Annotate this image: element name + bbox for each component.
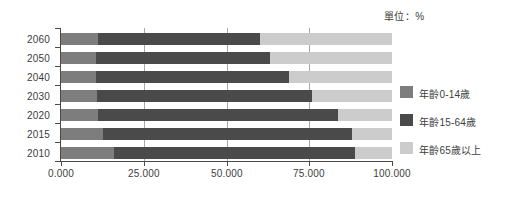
stacked-bar-chart: 單位：% 年齡0-14歲年齡15-64歲年齡65歲以上 206020502040… — [0, 0, 513, 203]
y-axis-label: 2060 — [0, 34, 50, 45]
bar-segment — [98, 33, 260, 45]
bar-segment — [96, 52, 269, 64]
bar-segment — [103, 128, 352, 140]
unit-caption: 單位：% — [384, 8, 425, 23]
bar-row — [61, 52, 392, 64]
x-axis-tick — [392, 161, 393, 166]
bar-segment — [61, 128, 103, 140]
y-axis-tick — [55, 123, 61, 124]
bar-segment — [61, 109, 98, 121]
bar-segment — [270, 52, 392, 64]
bar-segment — [61, 33, 98, 45]
y-axis-tick — [55, 85, 61, 86]
y-axis-tick — [55, 142, 61, 143]
legend-swatch-icon — [400, 114, 413, 126]
legend-label: 年齡15-64歲 — [419, 114, 476, 129]
x-axis-label: 75.000 — [274, 168, 344, 179]
bar-segment — [97, 90, 311, 102]
bar-segment — [312, 90, 392, 102]
x-axis-tick — [227, 161, 228, 166]
plot-area — [61, 28, 392, 161]
y-axis-label: 2030 — [0, 91, 50, 102]
bar-row — [61, 33, 392, 45]
bar-row — [61, 90, 392, 102]
bar-segment — [96, 71, 289, 83]
legend-label: 年齡65歲以上 — [419, 142, 482, 157]
bar-segment — [289, 71, 392, 83]
y-axis-label: 2040 — [0, 72, 50, 83]
y-axis-label: 2020 — [0, 110, 50, 121]
bar-segment — [114, 147, 355, 159]
x-axis-label: 100.000 — [357, 168, 427, 179]
x-axis-tick — [61, 161, 62, 166]
bar-segment — [338, 109, 392, 121]
bar-row — [61, 109, 392, 121]
bar-segment — [61, 147, 114, 159]
x-axis-label: 0.000 — [26, 168, 96, 179]
y-axis-label: 2010 — [0, 148, 50, 159]
bar-segment — [260, 33, 392, 45]
y-axis-tick — [55, 47, 61, 48]
legend-swatch-icon — [400, 86, 413, 98]
bar-segment — [355, 147, 392, 159]
bar-row — [61, 128, 392, 140]
x-axis-label: 25.000 — [109, 168, 179, 179]
legend-label: 年齡0-14歲 — [419, 86, 470, 101]
bar-segment — [61, 52, 96, 64]
bar-row — [61, 147, 392, 159]
bar-segment — [98, 109, 338, 121]
bar-segment — [61, 90, 97, 102]
y-axis-tick — [55, 104, 61, 105]
y-axis-tick — [55, 66, 61, 67]
x-axis-label: 50.000 — [192, 168, 262, 179]
bar-row — [61, 71, 392, 83]
y-axis-label: 2050 — [0, 53, 50, 64]
x-axis-tick — [309, 161, 310, 166]
legend-swatch-icon — [400, 142, 413, 154]
y-axis-tick — [55, 28, 61, 29]
x-axis-tick — [144, 161, 145, 166]
y-axis-label: 2015 — [0, 129, 50, 140]
bar-segment — [61, 71, 96, 83]
bar-segment — [352, 128, 392, 140]
